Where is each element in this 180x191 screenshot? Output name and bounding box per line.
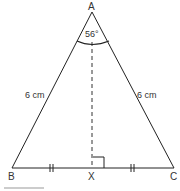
side-label-ab: 6 cm (25, 90, 45, 100)
side-ab (12, 12, 92, 168)
angle-arc (77, 41, 109, 45)
angle-label: 56° (85, 29, 99, 39)
vertex-label-a: A (88, 1, 95, 12)
side-ac (92, 12, 174, 168)
triangle-diagram: A B C X 56° 6 cm 6 cm (0, 0, 180, 191)
side-label-ac: 6 cm (137, 90, 157, 100)
caption-stub (4, 187, 44, 189)
right-angle-marker (93, 157, 104, 168)
vertex-label-x: X (88, 171, 95, 182)
vertex-label-c: C (170, 171, 177, 182)
vertex-label-b: B (8, 171, 15, 182)
